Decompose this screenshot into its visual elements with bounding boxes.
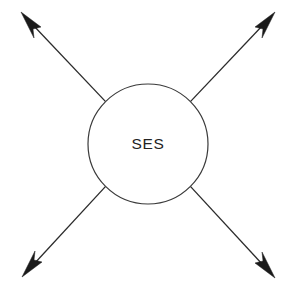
node-label: SES (132, 135, 165, 152)
central-node[interactable]: SES (88, 84, 208, 204)
arrow-line-bottom-right (190, 186, 263, 265)
arrow-line-top-left (33, 25, 106, 102)
arrow-head-bottom-left-icon (22, 251, 42, 277)
arrow-head-top-right-icon (255, 12, 275, 38)
diagram-canvas: SES (0, 0, 291, 287)
diagram-svg: SES (0, 0, 291, 287)
arrow-head-bottom-right-icon (255, 252, 275, 278)
arrow-head-top-left-icon (21, 12, 41, 38)
arrow-line-top-right (190, 25, 263, 102)
arrow-line-bottom-left (34, 186, 106, 264)
